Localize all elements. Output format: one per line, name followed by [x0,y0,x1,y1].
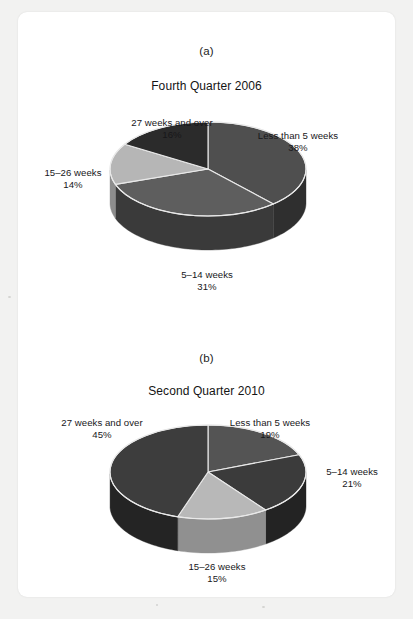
label-b-5-14-weeks-name: 5–14 weeks [326,466,378,477]
label-b-less-than-5-weeks-name: Less than 5 weeks [230,417,310,428]
label-a-5-14-weeks-name: 5–14 weeks [181,269,233,280]
label-a-5-14-weeks-pct: 31% [151,281,263,293]
label-b-15-26-weeks: 15–26 weeks 15% [161,561,273,585]
label-a-less-than-5-weeks: Less than 5 weeks 38% [233,130,363,154]
label-b-less-than-5-weeks-pct: 19% [205,429,335,441]
scan-speck [156,604,158,606]
label-a-15-26-weeks-name: 15–26 weeks [44,167,101,178]
figure-card: (a) Fourth Quarter 2006 27 weeks and ove… [18,12,395,597]
label-b-27-weeks-and-over-pct: 45% [37,429,167,441]
scan-speck [8,296,11,298]
panel-a: (a) Fourth Quarter 2006 27 weeks and ove… [18,12,395,312]
panel-b: (b) Second Quarter 2010 27 weeks and ove… [18,312,395,597]
label-b-5-14-weeks-pct: 21% [309,478,395,490]
panel-b-letter: (b) [18,352,395,364]
label-b-less-than-5-weeks: Less than 5 weeks 19% [205,417,335,441]
figure-page: (a) Fourth Quarter 2006 27 weeks and ove… [0,0,413,619]
label-b-27-weeks-and-over-name: 27 weeks and over [61,417,142,428]
label-b-15-26-weeks-name: 15–26 weeks [188,561,245,572]
label-a-15-26-weeks: 15–26 weeks 14% [24,167,122,191]
label-b-15-26-weeks-pct: 15% [161,573,273,585]
label-b-5-14-weeks: 5–14 weeks 21% [309,466,395,490]
label-a-27-weeks-and-over: 27 weeks and over 16% [107,117,237,141]
label-a-15-26-weeks-pct: 14% [24,179,122,191]
label-a-less-than-5-weeks-name: Less than 5 weeks [258,130,338,141]
label-a-27-weeks-and-over-pct: 16% [107,129,237,141]
scan-speck [262,606,265,608]
label-a-27-weeks-and-over-name: 27 weeks and over [131,117,212,128]
label-a-5-14-weeks: 5–14 weeks 31% [151,269,263,293]
label-a-less-than-5-weeks-pct: 38% [233,142,363,154]
panel-a-title: Fourth Quarter 2006 [18,79,395,93]
panel-b-title: Second Quarter 2010 [18,384,395,398]
label-b-27-weeks-and-over: 27 weeks and over 45% [37,417,167,441]
panel-a-letter: (a) [18,45,395,57]
